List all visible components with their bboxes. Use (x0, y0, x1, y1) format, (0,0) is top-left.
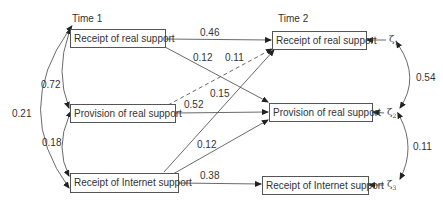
node-t2-receipt-real: Receipt of real support (272, 31, 367, 50)
node-t1-receipt-internet: Receipt of Internet support (70, 173, 179, 193)
node-t2-provision-real: Provision of real support (269, 103, 373, 122)
coef-0.72: 0.72 (41, 80, 60, 90)
corr-0.11 (400, 117, 408, 179)
node-t1-receipt-real: Receipt of real support (70, 29, 166, 48)
coef-0.12-bottom: 0.12 (197, 140, 216, 150)
coef-0.54: 0.54 (416, 73, 435, 83)
corr-0.72 (62, 33, 69, 108)
coef-0.12-top: 0.12 (193, 53, 212, 63)
coef-0.52: 0.52 (184, 100, 203, 110)
time-1-label: Time 1 (72, 14, 102, 24)
time-2-label: Time 2 (278, 14, 308, 24)
zeta-2: ζ2 (387, 106, 396, 119)
corr-0.54 (399, 46, 410, 108)
corr-0.18 (62, 116, 69, 176)
coef-0.15: 0.15 (210, 89, 229, 99)
zeta-1: ζ1 (389, 33, 398, 46)
coef-0.11: 0.11 (225, 53, 244, 63)
node-t1-provision-real: Provision of real support (70, 104, 176, 123)
path-0.46 (165, 39, 271, 40)
node-t2-receipt-internet: Receipt of Internet support (262, 176, 369, 195)
path-0.52 (175, 112, 268, 113)
coef-0.18: 0.18 (42, 138, 61, 148)
zeta-3: ζ3 (387, 178, 396, 191)
coef-0.46: 0.46 (200, 28, 219, 38)
coef-0.11-right: 0.11 (413, 142, 432, 152)
coef-0.21: 0.21 (12, 109, 31, 119)
path-diagram-lines (0, 0, 443, 205)
path-0.12-bottom (173, 120, 268, 174)
coef-0.38: 0.38 (200, 171, 219, 181)
